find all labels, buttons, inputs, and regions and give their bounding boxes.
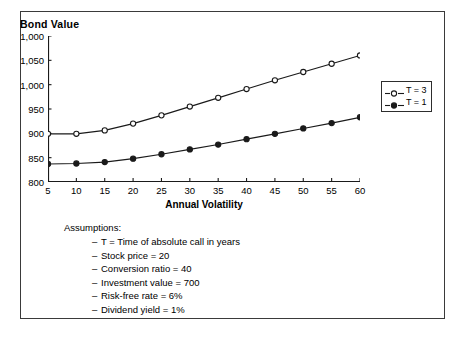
x-axis-tick-label: 40 — [241, 185, 252, 196]
bullet-dash-icon: – — [92, 262, 101, 275]
bullet-dash-icon: – — [92, 303, 101, 316]
x-axis-tick-label: 15 — [99, 185, 110, 196]
assumption-text: Stock price = 20 — [101, 250, 169, 261]
x-axis-tick-label: 5 — [45, 185, 50, 196]
chart-svg — [48, 36, 360, 182]
open-circle-icon — [385, 85, 405, 96]
assumption-text: Dividend yield = 1% — [101, 304, 185, 315]
assumption-item: –Investment value = 700 — [92, 276, 240, 289]
bullet-dash-icon: – — [92, 249, 101, 262]
assumption-item: –Dividend yield = 1% — [92, 303, 240, 316]
x-axis-tick-label: 30 — [185, 185, 196, 196]
chart-title: Bond Value — [20, 18, 79, 30]
bullet-dash-icon: – — [92, 289, 101, 302]
y-axis-tick-label: 1,050 — [4, 55, 44, 66]
legend-label: T = 1 — [405, 97, 427, 107]
bullet-dash-icon: – — [92, 235, 101, 248]
y-axis-tick-label: 950 — [4, 104, 44, 115]
chart-legend: T = 3T = 1 — [381, 81, 432, 112]
legend-item: T = 1 — [385, 96, 427, 108]
assumption-item: –Risk-free rate = 6% — [92, 289, 240, 302]
assumption-item: –Conversion ratio = 40 — [92, 262, 240, 275]
y-axis-tick-label: 850 — [4, 152, 44, 163]
x-axis-tick-label: 25 — [156, 185, 167, 196]
x-axis-tick-label: 20 — [128, 185, 139, 196]
plot-area — [48, 36, 360, 182]
y-axis-tick-label: 1,000 — [4, 79, 44, 90]
assumption-text: Risk-free rate = 6% — [101, 290, 183, 301]
assumption-text: Conversion ratio = 40 — [101, 263, 192, 274]
filled-circle-icon — [385, 97, 405, 108]
x-axis-tick-label: 35 — [213, 185, 224, 196]
x-axis-title: Annual Volatility — [48, 199, 360, 210]
bullet-dash-icon: – — [92, 276, 101, 289]
assumption-text: T = Time of absolute call in years — [101, 236, 240, 247]
y-axis-tick-label: 800 — [4, 177, 44, 188]
y-axis-tick-label: 1,000 — [4, 31, 44, 42]
x-axis-tick-label: 10 — [71, 185, 82, 196]
x-axis-tick-label: 45 — [270, 185, 281, 196]
x-axis-tick-label: 50 — [298, 185, 309, 196]
x-axis-tick-label: 55 — [326, 185, 337, 196]
assumption-item: –T = Time of absolute call in years — [92, 235, 240, 248]
y-axis-tick-labels: 1,0001,0501,000950900850800 — [0, 36, 44, 182]
assumptions-heading: Assumptions: — [64, 221, 240, 234]
x-axis-tick-labels: 51015202530354045505560 — [48, 185, 360, 199]
assumptions-list: –T = Time of absolute call in years–Stoc… — [64, 235, 240, 316]
y-axis-tick-label: 900 — [4, 128, 44, 139]
assumption-item: –Stock price = 20 — [92, 249, 240, 262]
legend-label: T = 3 — [405, 85, 427, 95]
x-axis-tick-label: 60 — [355, 185, 366, 196]
assumptions-block: Assumptions: –T = Time of absolute call … — [64, 221, 240, 316]
legend-item: T = 3 — [385, 84, 427, 96]
assumption-text: Investment value = 700 — [101, 277, 200, 288]
